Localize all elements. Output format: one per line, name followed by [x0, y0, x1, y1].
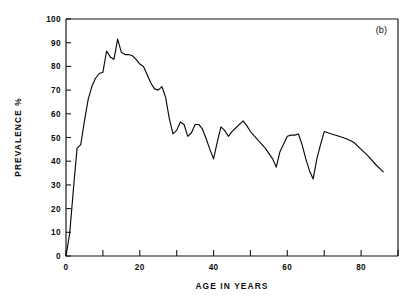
x-axis-title: AGE IN YEARS — [195, 281, 268, 291]
y-tick-label: 90 — [51, 39, 61, 48]
x-tick-label: 40 — [209, 263, 219, 272]
x-tick-label: 60 — [282, 263, 292, 272]
y-tick-label: 0 — [56, 252, 61, 261]
y-axis-title: PREVALENCE % — [13, 97, 23, 177]
data-series-prevalence — [66, 39, 383, 256]
y-tick-label: 70 — [51, 86, 61, 95]
prevalence-line-chart: 0 10 20 30 40 50 60 70 80 90 100 0 20 40… — [0, 0, 420, 302]
y-tick-label: 100 — [46, 15, 61, 24]
y-tick-label: 30 — [51, 181, 61, 190]
y-tick-label: 20 — [51, 205, 61, 214]
axes-frame — [66, 19, 398, 256]
figure-panel-b: 0 10 20 30 40 50 60 70 80 90 100 0 20 40… — [0, 0, 420, 302]
panel-label: (b) — [376, 25, 387, 35]
y-tick-label: 60 — [51, 110, 61, 119]
x-tick-label: 20 — [135, 263, 145, 272]
x-tick-labels: 0 20 40 60 80 — [64, 263, 367, 272]
y-tick-label: 10 — [51, 228, 61, 237]
x-tick-label: 80 — [356, 263, 366, 272]
y-tick-labels: 0 10 20 30 40 50 60 70 80 90 100 — [46, 15, 61, 261]
y-tick-label: 80 — [51, 62, 61, 71]
y-tick-label: 40 — [51, 157, 61, 166]
x-tick-label: 0 — [64, 263, 69, 272]
x-tick-marks — [66, 250, 398, 256]
y-tick-label: 50 — [51, 134, 61, 143]
